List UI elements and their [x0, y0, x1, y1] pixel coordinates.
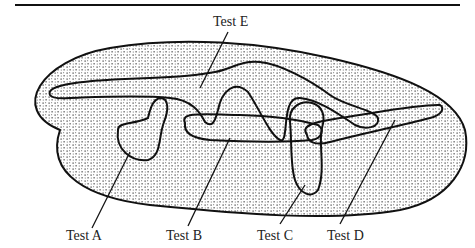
diagram-canvas: [0, 0, 475, 248]
label-test-c: Test C: [257, 228, 293, 244]
label-test-b: Test B: [166, 228, 202, 244]
label-test-e: Test E: [213, 14, 248, 30]
label-test-d: Test D: [327, 228, 364, 244]
population-region: [35, 42, 466, 216]
label-test-a: Test A: [66, 228, 102, 244]
